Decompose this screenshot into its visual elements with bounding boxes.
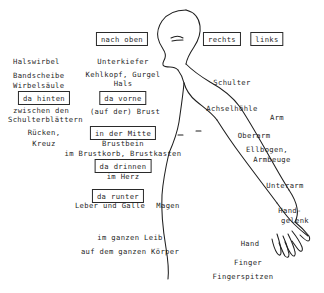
- label-im-herz: im Herz: [107, 172, 140, 181]
- label-im-ganzen-leib: im ganzen Leib: [97, 233, 162, 242]
- label-leber-und-galle: Leber und Galle: [75, 201, 145, 210]
- chest-front-shoulder: [184, 83, 217, 120]
- boxed-label-links[interactable]: links: [250, 32, 283, 46]
- label-auf-der-brust: (auf der) Brust: [90, 107, 160, 116]
- label-unterarm: Unterarm: [266, 181, 303, 190]
- boxed-label-da-drinnen[interactable]: da drinnen: [95, 159, 152, 173]
- label-ellbogen: Ellbogen,: [246, 145, 288, 154]
- boxed-label-rechts[interactable]: rechts: [203, 32, 241, 46]
- boxed-label-in-der-mitte[interactable]: in der Mitte: [90, 126, 156, 140]
- label-handgelenk-line2: gelenk: [281, 216, 309, 225]
- label-ruecken: Rücken,: [28, 128, 61, 137]
- label-magen: Magen: [156, 201, 179, 210]
- label-hals: Hals: [114, 79, 133, 88]
- label-arm: Arm: [270, 113, 284, 122]
- label-achselhoehle: Achselhöhle: [206, 104, 257, 113]
- label-armbeuge: Armbeuge: [253, 155, 290, 164]
- ear-icon: [171, 37, 183, 39]
- body-diagram-page: nach oben rechts links da hinten da vorn…: [0, 0, 324, 293]
- label-auf-dem-ganzen-koerper: auf dem ganzen Körper: [81, 247, 179, 256]
- label-hand: Hand: [241, 239, 260, 248]
- label-kehlkopf-gurgel: Kehlkopf, Gurgel: [86, 70, 161, 79]
- jaw-neck-front: [178, 70, 184, 83]
- label-schulter: Schulter: [213, 78, 250, 87]
- label-kreuz: Kreuz: [32, 139, 55, 148]
- thumb: [272, 234, 281, 255]
- label-fingerspitzen: Fingerspitzen: [213, 272, 274, 281]
- label-brustbein: Brustbein: [102, 139, 144, 148]
- torso-front-outline: [169, 83, 184, 153]
- boxed-label-da-vorne[interactable]: da vorne: [99, 91, 146, 105]
- label-finger: Finger: [234, 258, 262, 267]
- label-oberarm: Oberarm: [238, 131, 271, 140]
- label-wirbelsaeule: Wirbelsäule: [13, 81, 64, 90]
- label-unterkiefer: Unterkiefer: [97, 57, 148, 66]
- label-zwischen-den: zwischen den: [13, 106, 69, 115]
- boxed-label-nach-oben[interactable]: nach oben: [96, 32, 148, 46]
- label-bandscheibe: Bandscheibe: [13, 71, 64, 80]
- head-back-outline: [186, 10, 200, 64]
- label-im-brustkorb: im Brustkorb, Brustkasten: [65, 149, 182, 158]
- label-schulterblaettern: Schulterblättern: [8, 115, 83, 124]
- label-halswirbel: Halswirbel: [13, 57, 60, 66]
- label-handgelenk-line1: Hand-: [278, 206, 301, 215]
- ear-icon-lower: [172, 40, 183, 41]
- boxed-label-da-hinten[interactable]: da hinten: [18, 91, 70, 105]
- torso-side-outline: [162, 153, 169, 279]
